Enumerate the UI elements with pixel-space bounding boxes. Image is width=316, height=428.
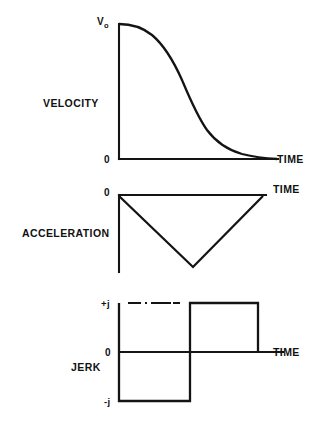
- panel-velocity: VELOCITY Vo 0 TIME: [43, 16, 304, 165]
- panel-acceleration: ACCELERATION 0 TIME: [22, 183, 300, 272]
- jerk-positive-tick: +j: [101, 298, 110, 309]
- physics-figure: VELOCITY Vo 0 TIME ACCELERATION 0 TIME: [0, 0, 316, 428]
- acceleration-axis-label: ACCELERATION: [22, 227, 109, 239]
- velocity-time-label: TIME: [277, 153, 304, 165]
- jerk-time-label: TIME: [273, 346, 300, 358]
- jerk-negative-tick: -j: [104, 396, 111, 407]
- acceleration-time-label: TIME: [273, 183, 300, 195]
- velocity-axis-label: VELOCITY: [43, 97, 99, 109]
- acceleration-curve: [119, 196, 263, 267]
- velocity-max-tick: Vo: [97, 16, 109, 30]
- panel-jerk: JERK +j 0 -j TIME: [71, 298, 300, 407]
- velocity-zero-tick: 0: [104, 154, 110, 165]
- velocity-curve: [119, 24, 277, 159]
- figure-svg: VELOCITY Vo 0 TIME ACCELERATION 0 TIME: [0, 0, 316, 428]
- jerk-axis-label: JERK: [71, 361, 101, 373]
- acceleration-zero-tick: 0: [104, 187, 110, 198]
- jerk-zero-tick: 0: [105, 347, 111, 358]
